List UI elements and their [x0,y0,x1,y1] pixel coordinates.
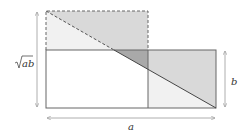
a-label: a [128,121,134,132]
sqrt-ab-label: ab [15,56,34,69]
b-label: b [231,76,237,87]
diagram-canvas: ab b a [0,0,248,133]
sqrt-ab-radicand: ab [22,58,34,69]
